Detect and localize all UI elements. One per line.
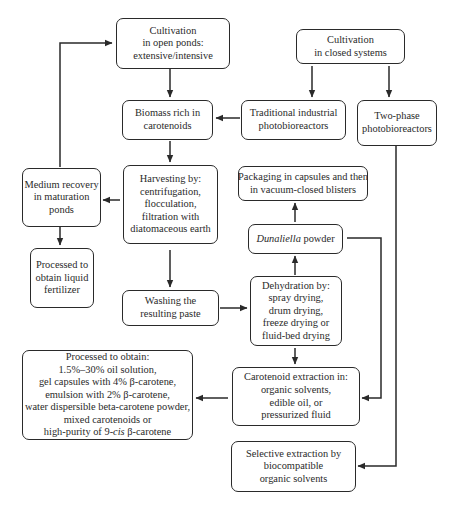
node-text-line: photobioreactors bbox=[259, 120, 329, 133]
node-carotenoid-extraction: Carotenoid extraction in: organic solven… bbox=[232, 367, 360, 426]
node-medium-recovery: Medium recovery in maturation ponds bbox=[22, 168, 101, 227]
node-text-line: 1.5%–30% oil solution, bbox=[58, 364, 156, 377]
node-text-prefix: high-purity of 9- bbox=[44, 426, 113, 437]
node-text-rest: powder bbox=[301, 233, 335, 244]
node-text-line: extensive/intensive bbox=[133, 50, 213, 63]
node-washing: Washing the resulting paste bbox=[122, 290, 219, 326]
node-text-line: mixed carotenoids or bbox=[64, 414, 152, 427]
node-harvesting: Harvesting by: centrifugation, flocculat… bbox=[123, 165, 218, 244]
node-text-line: pressurized fluid bbox=[261, 409, 331, 422]
node-text-line: gel capsules with 4% β-carotene, bbox=[39, 376, 176, 389]
node-text-line: Washing the bbox=[145, 295, 196, 308]
node-text-line: edible oil, or bbox=[270, 397, 323, 410]
node-two-phase-photobioreactors: Two-phase photobioreactors bbox=[357, 100, 437, 146]
node-text-line: Harvesting by: bbox=[140, 173, 201, 186]
node-text-line: organic solvents, bbox=[261, 384, 331, 397]
node-text-line: photobioreactors bbox=[362, 123, 432, 136]
node-text-line: Processed to bbox=[36, 259, 88, 272]
node-text-suffix: β-carotene bbox=[125, 426, 172, 437]
species-name: Dunaliella bbox=[256, 233, 300, 244]
node-text-line: diatomaceous earth bbox=[130, 223, 211, 236]
node-text-line: Cultivation bbox=[150, 25, 197, 38]
node-text-line: spray drying, bbox=[269, 292, 324, 305]
node-selective-extraction: Selective extraction by biocompatible or… bbox=[231, 441, 356, 492]
node-text-line: Biomass rich in bbox=[135, 107, 200, 120]
isomer-label: cis bbox=[113, 426, 125, 437]
node-text-line: in vacuum-closed blisters bbox=[250, 184, 356, 197]
node-text-line: emulsion with 2% β-carotene, bbox=[45, 389, 170, 402]
node-cultivation-open-ponds: Cultivation in open ponds: extensive/int… bbox=[116, 18, 230, 69]
node-text-line: Processed to obtain: bbox=[66, 351, 150, 364]
node-text-line: drum drying, bbox=[269, 305, 323, 318]
node-processed-products: Processed to obtain: 1.5%–30% oil soluti… bbox=[22, 350, 193, 440]
node-dehydration: Dehydration by: spray drying, drum dryin… bbox=[250, 276, 342, 346]
node-text-line: in open ponds: bbox=[142, 37, 203, 50]
node-text-line: resulting paste bbox=[140, 308, 200, 321]
node-text-line: Dunaliella powder bbox=[256, 233, 334, 246]
node-text-line: Cultivation bbox=[327, 34, 374, 47]
node-text-line: freeze drying or bbox=[263, 317, 329, 330]
node-text-line: centrifugation, bbox=[140, 186, 201, 199]
node-text-line: fluid-bed drying bbox=[262, 330, 330, 343]
node-text-line: water dispersible beta-carotene powder, bbox=[25, 401, 190, 414]
node-text-line: Carotenoid extraction in: bbox=[244, 371, 348, 384]
node-text-line: Traditional industrial bbox=[250, 107, 338, 120]
node-text-line: obtain liquid bbox=[36, 272, 89, 285]
node-text-line: biocompatible bbox=[264, 460, 323, 473]
node-text-line: Selective extraction by bbox=[246, 448, 341, 461]
node-text-line: high-purity of 9-cis β-carotene bbox=[44, 426, 171, 439]
node-text-line: fertilizer bbox=[44, 284, 80, 297]
node-text-line: Medium recovery bbox=[24, 179, 98, 192]
node-text-line: Packaging in capsules and then bbox=[238, 171, 368, 184]
node-dunaliella-powder: Dunaliella powder bbox=[248, 224, 343, 254]
node-text-line: ponds bbox=[49, 204, 74, 217]
node-liquid-fertilizer: Processed to obtain liquid fertilizer bbox=[30, 248, 94, 308]
node-text-line: flocculation, bbox=[144, 198, 196, 211]
node-text-line: in maturation bbox=[34, 191, 90, 204]
node-text-line: Dehydration by: bbox=[262, 280, 330, 293]
node-text-line: organic solvents bbox=[260, 473, 328, 486]
node-text-line: in closed systems bbox=[314, 47, 387, 60]
node-text-line: filtration with bbox=[142, 211, 199, 224]
node-biomass: Biomass rich in carotenoids bbox=[122, 100, 213, 140]
node-packaging: Packaging in capsules and then in vacuum… bbox=[238, 166, 368, 201]
node-text-line: Two-phase bbox=[374, 110, 419, 123]
node-traditional-photobioreactors: Traditional industrial photobioreactors bbox=[241, 100, 346, 140]
node-cultivation-closed-systems: Cultivation in closed systems bbox=[296, 29, 405, 64]
node-text-line: carotenoids bbox=[144, 120, 192, 133]
